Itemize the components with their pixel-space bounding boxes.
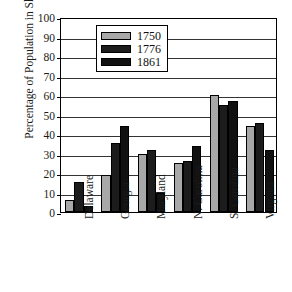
legend-label: 1776 (137, 43, 161, 55)
y-tick-label: 0 (25, 208, 55, 218)
x-tick-label: Maryland (155, 174, 167, 219)
legend-label: 1861 (137, 56, 161, 68)
legend-swatch (101, 58, 131, 66)
bar-chart-figure: Percentage of Population in Slavery 0102… (0, 0, 292, 292)
legend-swatch (101, 32, 131, 40)
bar (65, 200, 74, 212)
bar (210, 95, 219, 212)
bar (138, 154, 147, 213)
legend-swatch (101, 45, 131, 53)
y-tick-label: 40 (25, 130, 55, 140)
x-tick-label: Georgia (119, 182, 131, 219)
y-tick-label: 30 (25, 150, 55, 160)
x-tick-label: Virginia (264, 182, 276, 219)
legend-entry: 1776 (101, 42, 161, 55)
bar (183, 161, 192, 212)
y-tick-mark (57, 214, 61, 215)
y-tick-label: 90 (25, 33, 55, 43)
y-tick-label: 60 (25, 91, 55, 101)
bar (174, 163, 183, 212)
x-tick-label: S. Carolina (228, 167, 240, 219)
y-tick-label: 10 (25, 189, 55, 199)
y-tick-label: 70 (25, 72, 55, 82)
x-tick-label: Delaware (83, 175, 95, 219)
chart-legend: 175017761861 (96, 25, 168, 72)
legend-entry: 1750 (101, 29, 161, 42)
legend-entry: 1861 (101, 55, 161, 68)
y-tick-label: 100 (25, 13, 55, 23)
y-tick-label: 50 (25, 111, 55, 121)
x-tick-label: N. Carolina (192, 165, 204, 219)
bar (219, 105, 228, 212)
bar (101, 175, 110, 212)
bar (246, 126, 255, 212)
legend-label: 1750 (137, 30, 161, 42)
y-tick-label: 80 (25, 52, 55, 62)
y-tick-label: 20 (25, 169, 55, 179)
